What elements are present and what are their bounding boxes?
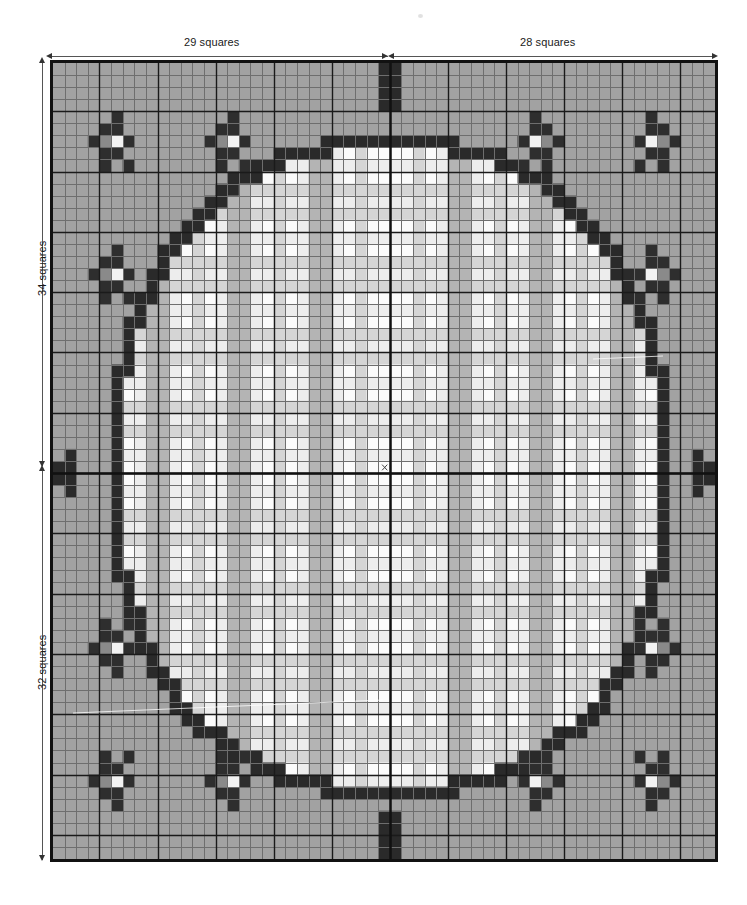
- top-right-arrow-start-icon: [388, 53, 394, 59]
- left-lower-dimension-label: 32 squares: [36, 635, 48, 690]
- top-left-dimension-line: [52, 56, 388, 57]
- top-right-arrow-end-icon: [712, 53, 718, 59]
- top-left-arrow-start-icon: [46, 53, 52, 59]
- pattern-chart-grid[interactable]: [50, 60, 718, 862]
- left-lower-arrow-end-icon: [39, 855, 45, 861]
- scan-speck: [418, 14, 423, 18]
- pattern-chart-page: 29 squares 28 squares 34 squares 32 squa…: [0, 0, 747, 905]
- left-lower-arrow-start-icon: [39, 465, 45, 471]
- top-left-dimension-label: 29 squares: [184, 36, 239, 48]
- pattern-chart-canvas[interactable]: [53, 63, 715, 859]
- left-upper-arrow-start-icon: [39, 57, 45, 63]
- top-right-dimension-label: 28 squares: [520, 36, 575, 48]
- top-right-dimension-line: [392, 56, 716, 57]
- left-upper-dimension-label: 34 squares: [36, 241, 48, 296]
